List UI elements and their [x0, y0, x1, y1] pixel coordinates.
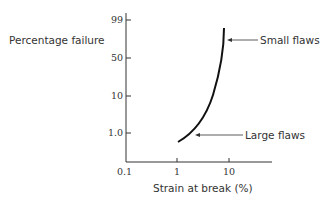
- y-axis-label: Percentage failure: [9, 35, 105, 46]
- x-tick-label-10: 10: [223, 167, 235, 177]
- annotation-small-flaws: Small flaws: [260, 35, 320, 46]
- y-tick-label-1: 1.0: [108, 128, 123, 138]
- x-tick-label-0.1: 0.1: [117, 167, 132, 177]
- y-tick-label-99: 99: [111, 15, 123, 25]
- x-axis-label: Strain at break (%): [153, 183, 253, 194]
- x-tick-label-1: 1: [174, 167, 180, 177]
- y-tick-label-10: 10: [111, 91, 123, 101]
- large-flaws-arrowhead: [195, 133, 200, 137]
- failure-curve: [178, 28, 224, 142]
- chart-plot-area: [0, 0, 327, 201]
- small-flaws-arrowhead: [227, 38, 232, 42]
- annotation-large-flaws: Large flaws: [245, 130, 305, 141]
- y-tick-label-50: 50: [111, 53, 123, 63]
